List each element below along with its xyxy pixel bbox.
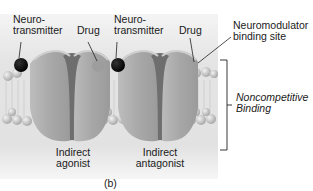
neurotransmitter-right: [111, 58, 125, 72]
label-drug-left: Drug: [77, 25, 100, 36]
receptor-right: [118, 51, 198, 142]
label-indirect-agonist: Indirect agonist: [42, 147, 104, 169]
label-neurotransmitter-right: Neuro- transmitter: [114, 14, 164, 36]
receptor-binding-diagram: Neuro- transmitter Drug Neuro- transmitt…: [0, 0, 313, 191]
panel-label: (b): [104, 178, 117, 189]
label-indirect-antagonist: Indirect antagonist: [127, 147, 193, 169]
neurotransmitter-left: [14, 58, 28, 72]
label-noncompetitive-binding: Noncompetitive Binding: [236, 92, 308, 114]
label-drug-right: Drug: [179, 25, 202, 36]
noncompetitive-bracket: [220, 60, 232, 150]
drug-left: [92, 60, 104, 72]
label-neurotransmitter-left: Neuro- transmitter: [13, 14, 63, 36]
label-neuromodulator-binding-site: Neuromodulator binding site: [233, 20, 308, 42]
